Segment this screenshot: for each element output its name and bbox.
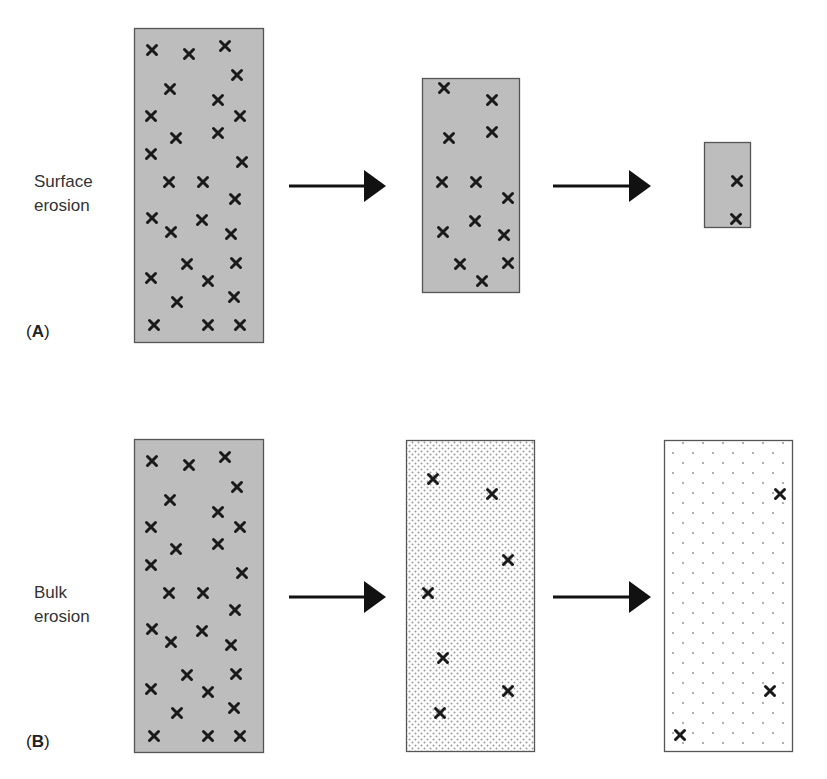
progression-arrow-icon bbox=[553, 581, 651, 613]
progression-arrow-icon bbox=[553, 170, 651, 202]
diagram-canvas bbox=[0, 0, 827, 779]
matrix-panel-b-3 bbox=[665, 441, 793, 752]
panels-layer bbox=[135, 29, 793, 753]
matrix-block bbox=[705, 143, 751, 228]
matrix-block bbox=[665, 441, 793, 752]
matrix-panel-b-2 bbox=[407, 441, 535, 752]
matrix-panel-a-3 bbox=[705, 143, 751, 228]
progression-arrow-icon bbox=[289, 170, 386, 202]
matrix-panel-a-1 bbox=[135, 29, 264, 343]
progression-arrow-icon bbox=[289, 581, 386, 613]
matrix-panel-a-2 bbox=[423, 79, 520, 293]
matrix-panel-b-1 bbox=[135, 440, 264, 753]
